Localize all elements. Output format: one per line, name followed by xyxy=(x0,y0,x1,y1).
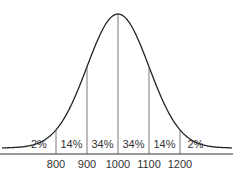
sigma-dividers xyxy=(56,14,180,154)
x-tick-labels: 800900100011001200 xyxy=(47,158,192,170)
segment-label: 34% xyxy=(91,138,113,150)
x-tick-label: 1200 xyxy=(168,158,192,170)
x-tick-label: 900 xyxy=(78,158,96,170)
bell-curve xyxy=(2,14,232,148)
segment-labels: 2%14%34%34%14%2% xyxy=(31,138,204,150)
x-tick-label: 800 xyxy=(47,158,65,170)
normal-distribution-chart: 2%14%34%34%14%2% 800900100011001200 xyxy=(0,0,246,175)
x-tick-label: 1100 xyxy=(137,158,161,170)
segment-label: 14% xyxy=(60,138,82,150)
x-tick-label: 1000 xyxy=(106,158,130,170)
segment-label: 34% xyxy=(122,138,144,150)
segment-label: 2% xyxy=(31,138,47,150)
segment-label: 2% xyxy=(188,138,204,150)
segment-label: 14% xyxy=(153,138,175,150)
